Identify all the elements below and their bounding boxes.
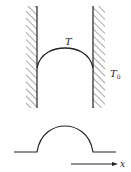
right-wall-hatching [93,6,105,108]
profile-curve [14,126,116,152]
left-wall-hatching [26,6,37,108]
left-wall [26,6,37,108]
meniscus-curve [37,48,93,68]
right-wall [93,6,105,108]
x-axis-label: x [120,159,125,169]
wall-temperature-subscript: 0 [117,73,121,80]
wall-temperature-label: T0 [110,68,121,80]
arrowhead-icon [112,162,118,166]
meniscus-temperature-label: T [65,36,73,47]
x-axis-arrow [71,162,118,166]
diagram-canvas: T T0 x [0,0,131,172]
